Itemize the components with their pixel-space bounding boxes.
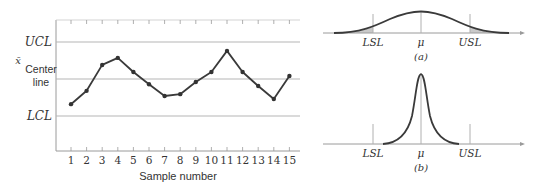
data-point (272, 97, 276, 101)
panel-a: LSL μ USL (a) (323, 11, 525, 62)
data-point (84, 89, 88, 93)
x-tick-label: 8 (177, 154, 184, 166)
x-tick-label: 3 (99, 154, 106, 166)
usl-label-b: USL (458, 147, 481, 159)
arrow-a-icon (520, 31, 525, 35)
data-point (225, 49, 229, 53)
x-tick-label: 6 (146, 154, 153, 166)
data-point (131, 70, 135, 74)
x-tick-labels: 123456789101112131415 (68, 154, 296, 166)
data-point (100, 63, 104, 67)
x-tick-label: 13 (252, 154, 265, 166)
x-tick-label: 14 (267, 154, 281, 166)
x-tick-label: 9 (192, 154, 199, 166)
data-point (69, 102, 73, 106)
caption-a: (a) (414, 51, 428, 62)
x-tick-label: 15 (283, 154, 296, 166)
lcl-label: LCL (26, 109, 52, 123)
x-tick-label: 5 (130, 154, 137, 166)
data-point (240, 70, 244, 74)
ucl-label: UCL (25, 35, 52, 49)
data-point (178, 92, 182, 96)
center-label-1: Center (25, 63, 57, 75)
x-axis-label: Sample number (139, 170, 217, 182)
x-tick-label: 1 (68, 154, 75, 166)
figure: UCL LCL Center line x̄ 12345678910111213… (0, 0, 540, 184)
lsl-label-a: LSL (361, 36, 383, 48)
panel-b: LSL μ USL (b) (323, 74, 525, 173)
usl-label-a: USL (458, 36, 481, 48)
x-tick-label: 10 (205, 154, 218, 166)
data-point (162, 94, 166, 98)
data-point (194, 80, 198, 84)
x-tick-label: 12 (236, 154, 249, 166)
x-tick-label: 7 (161, 154, 168, 166)
caption-b: (b) (414, 162, 428, 173)
mu-label-a: μ (418, 36, 425, 48)
lsl-label-b: LSL (361, 147, 383, 159)
data-point (287, 74, 291, 78)
data-point (256, 84, 260, 88)
arrow-b-icon (520, 142, 525, 146)
center-label-2: line (33, 76, 50, 88)
data-point (116, 56, 120, 60)
data-point (209, 70, 213, 74)
x-tick-label: 2 (83, 154, 90, 166)
control-chart: UCL LCL Center line x̄ 12345678910111213… (15, 20, 300, 182)
x-tick-label: 11 (220, 154, 233, 166)
data-point (147, 82, 151, 86)
mu-label-b: μ (418, 147, 425, 159)
x-tick-label: 4 (114, 154, 121, 166)
data-points (69, 49, 292, 107)
y-symbol: x̄ (15, 55, 21, 66)
